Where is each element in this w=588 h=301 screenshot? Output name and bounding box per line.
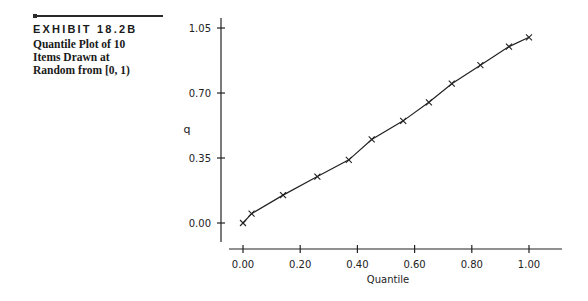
- x-tick-label: 0.00: [232, 259, 254, 270]
- x-tick-label: 0.20: [289, 259, 311, 270]
- x-marker-icon: [249, 211, 255, 217]
- x-marker-icon: [280, 192, 286, 198]
- data-series: [240, 34, 532, 226]
- x-marker-icon: [369, 136, 375, 142]
- quantile-plot: 0.000.350.701.05 0.000.200.400.600.801.0…: [0, 0, 588, 301]
- x-tick-label: 0.80: [461, 259, 483, 270]
- data-line: [243, 37, 529, 223]
- x-axis: 0.000.200.400.600.801.00: [229, 245, 562, 270]
- x-marker-icon: [449, 81, 455, 87]
- x-marker-icon: [400, 118, 406, 124]
- y-tick-label: 0.70: [189, 88, 211, 99]
- y-tick-label: 1.05: [189, 23, 211, 34]
- x-marker-icon: [346, 157, 352, 163]
- x-marker-icon: [314, 174, 320, 180]
- x-tick-label: 1.00: [518, 259, 540, 270]
- x-marker-icon: [526, 34, 532, 40]
- x-tick-label: 0.60: [403, 259, 425, 270]
- x-marker-icon: [426, 99, 432, 105]
- x-marker-icon: [477, 62, 483, 68]
- x-marker-icon: [240, 220, 246, 226]
- x-marker-icon: [506, 44, 512, 50]
- y-tick-label: 0.35: [189, 153, 211, 164]
- x-axis-label: Quantile: [367, 274, 409, 285]
- y-axis: 0.000.350.701.05: [189, 18, 225, 242]
- y-tick-label: 0.00: [189, 218, 211, 229]
- y-axis-label: q: [184, 123, 191, 136]
- x-tick-label: 0.40: [346, 259, 368, 270]
